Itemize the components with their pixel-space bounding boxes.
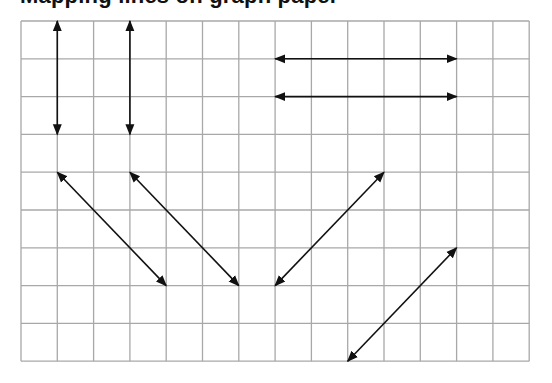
grid-lines xyxy=(21,21,529,361)
diagonal-arrow-3 xyxy=(275,172,384,285)
diagonal-arrow-4 xyxy=(348,248,457,361)
diagonal-arrow-2 xyxy=(130,172,239,285)
diagonal-arrow-1 xyxy=(57,172,166,285)
arrows xyxy=(57,21,456,361)
graph-paper-grid xyxy=(0,0,552,383)
